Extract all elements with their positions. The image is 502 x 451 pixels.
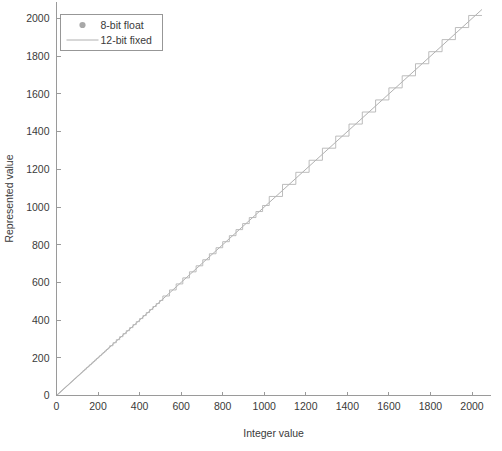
y-tick-label: 600 [32, 276, 50, 288]
x-axis-title: Integer value [243, 427, 304, 439]
y-tick-label: 1800 [26, 50, 50, 62]
y-tick-label: 1600 [26, 88, 50, 100]
y-tick-label: 400 [32, 314, 50, 326]
y-tick-label: 1400 [26, 125, 50, 137]
legend-marker-8-bit-float [79, 22, 85, 28]
x-tick-label: 600 [172, 400, 190, 412]
y-tick-label: 1000 [26, 201, 50, 213]
x-tick-label: 1400 [336, 400, 360, 412]
y-tick-label: 200 [32, 352, 50, 364]
y-tick-label: 800 [32, 239, 50, 251]
legend-label-8-bit-float: 8-bit float [101, 19, 144, 31]
x-tick-label: 800 [214, 400, 232, 412]
x-tick-label: 1600 [377, 400, 401, 412]
x-tick-label: 1000 [253, 400, 277, 412]
x-tick-label: 0 [54, 400, 60, 412]
series-8-bit-float [57, 15, 482, 395]
x-tick-label: 1200 [294, 400, 318, 412]
legend[interactable]: 8-bit float12-bit fixed [61, 15, 163, 51]
legend-label-12-bit-fixed: 12-bit fixed [101, 34, 153, 46]
plot-area[interactable]: 0200400600800100012001400160018002000020… [0, 0, 502, 451]
x-tick-label: 400 [131, 400, 149, 412]
x-tick-label: 200 [89, 400, 107, 412]
x-tick-label: 1800 [419, 400, 443, 412]
figure-canvas: 0200400600800100012001400160018002000020… [0, 0, 502, 451]
x-tick-label: 2000 [460, 400, 484, 412]
y-tick-label: 0 [44, 389, 50, 401]
y-tick-label: 1200 [26, 163, 50, 175]
y-tick-label: 2000 [26, 12, 50, 24]
y-axis-title: Represented value [3, 154, 15, 242]
data-series-group [57, 9, 482, 395]
